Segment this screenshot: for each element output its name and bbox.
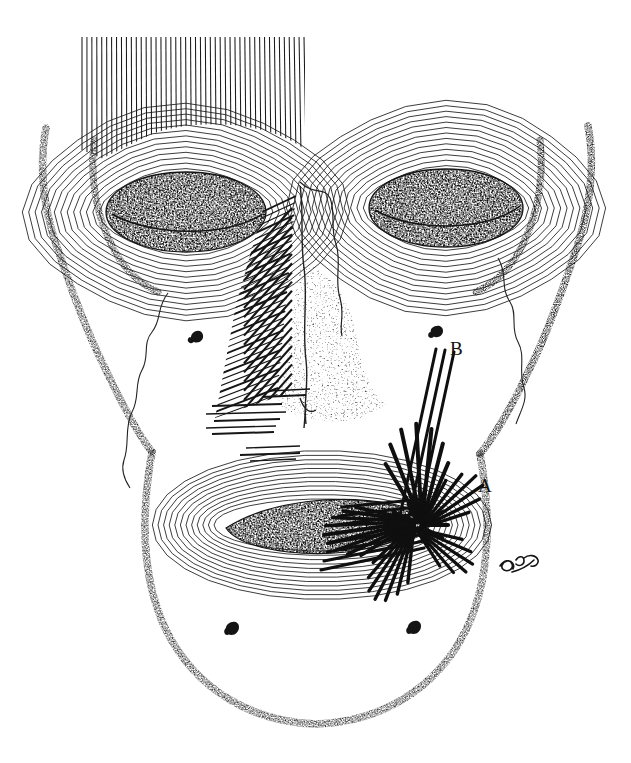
label-b: B bbox=[450, 339, 463, 358]
mental-foramen-left bbox=[224, 622, 239, 635]
mental-foramen-right bbox=[406, 621, 421, 634]
figure-canvas bbox=[0, 0, 631, 763]
infraorbital-foramen-left bbox=[188, 331, 203, 343]
nasal-aperture bbox=[278, 262, 386, 421]
infraorbital-foramen-right bbox=[428, 326, 443, 338]
orbital-cavity-left bbox=[106, 172, 266, 252]
orbital-cavity-right bbox=[369, 169, 523, 247]
artist-signature bbox=[500, 556, 538, 572]
zygomaticomaxillary-suture-left bbox=[123, 293, 168, 488]
label-a: A bbox=[478, 476, 492, 495]
anatomical-illustration: A B Anterior view of the skull with faci… bbox=[0, 0, 631, 763]
